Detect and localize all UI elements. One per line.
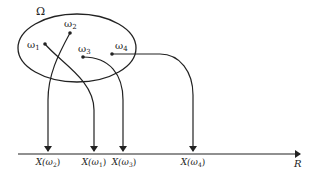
- random-variable-diagram: Ω ω1 ω2 ω3 ω4 R X(ω2) X(ω1) X(ω3) X(ω4): [0, 0, 314, 177]
- point-label-omega4: ω4: [115, 40, 128, 53]
- tick-label-X-omega4: X(ω4): [180, 157, 206, 168]
- mapping-arrow-omega3: [83, 57, 123, 151]
- tick-label-X-omega3: X(ω3): [111, 157, 137, 168]
- point-label-omega1: ω1: [27, 39, 40, 52]
- mapping-arrow-omega1: [45, 44, 94, 151]
- sample-space-label: Ω: [36, 5, 45, 18]
- tick-label-X-omega1: X(ω1): [81, 157, 107, 168]
- point-label-omega2: ω2: [64, 18, 77, 31]
- point-label-omega3: ω3: [78, 43, 91, 56]
- tick-label-X-omega2: X(ω2): [35, 157, 61, 168]
- axis-label-R: R: [293, 158, 302, 169]
